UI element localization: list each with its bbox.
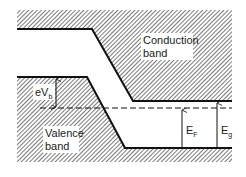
valence-band-label: Valence [45,127,84,139]
band-diagram: eVb EF Eg Conduction band Valence band [0,0,246,177]
fermi-label: EF [186,124,198,138]
conduction-band-label-2: band [143,47,167,59]
gap-label: Eg [221,124,232,139]
valence-band-label-2: band [45,140,69,152]
conduction-band-label: Conduction [143,34,199,46]
